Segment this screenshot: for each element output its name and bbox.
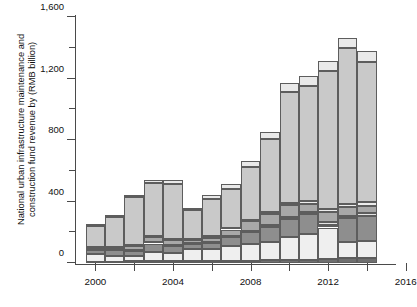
bar-segment (357, 206, 376, 214)
bar-segment (280, 219, 299, 237)
bar-segment (144, 183, 163, 236)
bar-segment (318, 228, 337, 260)
bar-segment (183, 261, 202, 263)
bar-segment (163, 240, 182, 244)
bar-segment (241, 244, 260, 260)
y-tick-major (67, 78, 76, 79)
x-tick (289, 263, 290, 271)
bar-segment (183, 208, 202, 211)
bar-segment (260, 132, 279, 139)
bar-segment (86, 254, 105, 262)
bar-segment (124, 256, 143, 262)
bar-segment (357, 216, 376, 241)
bar-segment (124, 197, 143, 245)
bar-2010 (280, 83, 299, 263)
bar-segment (105, 256, 124, 261)
bar-segment (260, 212, 279, 214)
y-tick-label: 1,600 (40, 1, 64, 12)
bar-segment (280, 237, 299, 260)
y-tick-major (67, 201, 76, 202)
bar-segment (280, 217, 299, 219)
x-tick-label: 2012 (317, 276, 339, 287)
bar-segment (241, 161, 260, 167)
bar-2013 (338, 38, 357, 263)
bar-segment (144, 252, 163, 261)
bar-segment (144, 244, 163, 253)
bar-segment (280, 92, 299, 203)
x-tick-label: 2000 (84, 276, 106, 287)
bar-segment (318, 61, 337, 71)
x-tick-label: 2016 (395, 276, 417, 287)
bar-segment (202, 243, 221, 249)
bar-segment (280, 205, 299, 217)
bar-segment (105, 215, 124, 217)
bar-segment (202, 238, 221, 242)
bar-segment (241, 232, 260, 244)
bar-segment (318, 225, 337, 228)
y-axis-title: National urban infrastructure maintenanc… (16, 0, 39, 259)
x-tick (251, 263, 252, 271)
bar-segment (144, 180, 163, 183)
bar-segment (280, 260, 299, 263)
bar-segment (338, 207, 357, 216)
bar-segment (357, 202, 376, 205)
bar-segment (318, 212, 337, 222)
bar-segment (318, 71, 337, 209)
bar-segment (221, 230, 240, 236)
bar-segment (221, 184, 240, 189)
x-tick (134, 263, 135, 271)
bar-segment (163, 184, 182, 239)
bar-segment (318, 209, 337, 212)
bar-segment (338, 48, 357, 203)
bar-segment (86, 224, 105, 226)
bar-segment (86, 250, 105, 253)
bar-2005 (183, 208, 202, 263)
bar-segment (202, 199, 221, 237)
plot-area: 04008001,2001,60020002004200820122016 (76, 17, 396, 263)
x-tick-label: 2004 (162, 276, 184, 287)
bar-segment (183, 240, 202, 243)
bar-segment (260, 225, 279, 227)
bar-segment (124, 246, 143, 250)
bar-segment (183, 249, 202, 261)
bar-segment (241, 219, 260, 221)
bar-segment (260, 139, 279, 212)
x-tick (367, 263, 368, 271)
bar-segment (280, 203, 299, 205)
bar-segment (299, 234, 318, 259)
bar-segment (202, 195, 221, 199)
y-tick-label: 0 (59, 247, 64, 258)
bar-2001 (105, 215, 124, 263)
bar-segment (221, 189, 240, 228)
y-tick-label: 800 (48, 124, 64, 135)
x-tick-label: 2008 (240, 276, 262, 287)
bar-segment (357, 258, 376, 263)
bar-2000 (86, 224, 105, 263)
y-tick-major (67, 262, 76, 263)
bar-segment (163, 261, 182, 263)
bar-segment (241, 167, 260, 219)
bar-segment (357, 213, 376, 216)
bar-segment (241, 261, 260, 263)
bar-segment (202, 249, 221, 261)
bar-segment (357, 62, 376, 202)
y-tick-minor (69, 108, 76, 109)
x-tick (406, 263, 407, 271)
bar-segment (338, 242, 357, 259)
bar-segment (299, 76, 318, 85)
bar-segment (163, 246, 182, 253)
y-tick-major (67, 16, 76, 17)
bar-segment (357, 51, 376, 62)
bar-segment (318, 222, 337, 224)
bar-segment (299, 204, 318, 212)
bar-segment (318, 259, 337, 263)
bar-segment (124, 195, 143, 198)
y-tick-minor (69, 231, 76, 232)
bar-segment (299, 214, 318, 234)
bar-2007 (221, 184, 240, 263)
x-axis-line (75, 264, 396, 265)
bar-segment (299, 212, 318, 214)
bar-segment (183, 244, 202, 249)
bar-segment (338, 258, 357, 263)
bar-segment (241, 230, 260, 232)
